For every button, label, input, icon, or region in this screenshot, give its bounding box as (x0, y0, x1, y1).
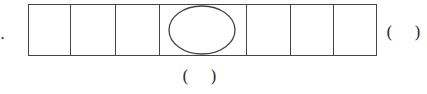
cell-divider (159, 5, 160, 55)
right-answer-blank: ( ) (386, 22, 421, 42)
cell-divider (333, 5, 334, 55)
cell-divider (246, 5, 247, 55)
bottom-answer-blank: ( ) (182, 66, 217, 86)
cell-divider (290, 5, 291, 55)
cell-divider (70, 5, 71, 55)
cell-divider (115, 5, 116, 55)
cell-strip (28, 4, 377, 56)
ellipse-shape (168, 5, 236, 55)
question-number-mark: . (0, 24, 5, 43)
